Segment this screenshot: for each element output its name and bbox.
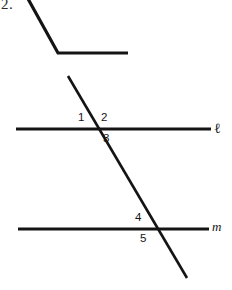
angle-label-5: 5 <box>140 233 146 245</box>
angle-label-4: 4 <box>135 212 141 224</box>
transversal-line <box>68 76 187 278</box>
problem-number: 2. <box>1 0 13 12</box>
figure-canvas <box>0 0 232 290</box>
geometry-figure: 2. 1 2 3 4 5 ℓ m <box>0 0 232 290</box>
angle-label-2: 2 <box>101 112 107 124</box>
line-label-m: m <box>212 220 221 233</box>
line-label-ell: ℓ <box>214 121 221 135</box>
bent-ray-icon <box>27 0 128 53</box>
angle-label-1: 1 <box>78 112 84 124</box>
angle-label-3: 3 <box>103 133 109 145</box>
